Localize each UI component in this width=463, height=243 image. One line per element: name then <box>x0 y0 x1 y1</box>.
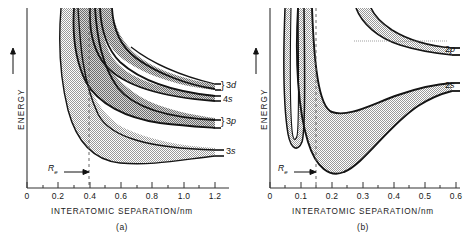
x-tick-label-a-6: 1.2 <box>209 191 221 201</box>
re-arrow-b <box>294 170 316 175</box>
brace-3p-a: } <box>221 116 224 127</box>
energy-up-arrow-icon-b <box>254 48 259 74</box>
band-3d-fill <box>100 8 215 90</box>
orbital-label-2p: 2p <box>445 44 455 54</box>
orbital-label-2s: 2s <box>445 80 455 90</box>
x-tick-label-a-3: 0.6 <box>115 191 127 201</box>
x-axis-title-a: INTERATOMIC SEPARATION/nm <box>51 207 193 216</box>
x-tick-label-b-2: 0.2 <box>326 191 338 201</box>
panel-b-bands <box>284 8 452 174</box>
x-tick-label-a-0: 0 <box>25 191 30 201</box>
x-tick-label-b-5: 0.5 <box>419 191 431 201</box>
x-ticks-b <box>270 182 456 188</box>
y-axis-title-a: ENERGY <box>17 88 26 130</box>
x-ticks-a <box>27 182 215 188</box>
equilibrium-label-b: Re <box>278 163 287 175</box>
brace-3d-a: } <box>221 80 224 91</box>
panel-a: ENERGY Re } 3d 4s } 3p 3s 0 0.2 0.4 0.6 … <box>0 0 232 243</box>
panel-b: ENERGY Re 2p 2s 0 0.1 0.2 0.3 0.4 0.5 0.… <box>232 0 463 243</box>
x-tick-label-a-4: 0.8 <box>146 191 158 201</box>
equilibrium-label-a: Re <box>48 163 57 175</box>
energy-up-arrow-icon-a <box>11 48 16 74</box>
x-tick-label-b-3: 0.3 <box>357 191 369 201</box>
panel-caption-a: (a) <box>116 222 128 232</box>
x-tick-label-a-5: 1.0 <box>178 191 190 201</box>
x-tick-label-b-1: 0.1 <box>295 191 307 201</box>
x-tick-label-b-4: 0.4 <box>388 191 400 201</box>
x-tick-label-a-2: 0.4 <box>84 191 96 201</box>
re-arrow-a <box>64 170 89 175</box>
band-2p-fill <box>356 8 452 55</box>
y-axis-title-b: ENERGY <box>260 88 269 130</box>
x-tick-label-b-6: 0.6 <box>450 191 462 201</box>
x-axis-title-b: INTERATOMIC SEPARATION/nm <box>292 207 434 216</box>
x-tick-label-b-0: 0 <box>268 191 273 201</box>
panel-caption-b: (b) <box>357 222 369 232</box>
x-tick-label-a-1: 0.2 <box>52 191 64 201</box>
figure-root: ENERGY Re } 3d 4s } 3p 3s 0 0.2 0.4 0.6 … <box>0 0 463 243</box>
curve-2p-well-inner-a <box>290 8 297 139</box>
